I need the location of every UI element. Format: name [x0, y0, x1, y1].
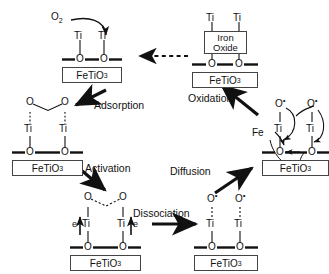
- o-atom-label: O: [84, 242, 92, 252]
- o2-gas-label: O2: [51, 12, 63, 24]
- o-radical-label: O•: [235, 192, 246, 204]
- step-label-adsorption: Adsorption: [94, 100, 144, 111]
- step-label-dissociation: Dissociation: [133, 208, 190, 219]
- o-atom-label: O: [26, 97, 34, 107]
- node-clean-surface: [62, 40, 122, 60]
- diagram-vector-layer: [0, 0, 329, 274]
- o-atom-label: O: [208, 59, 216, 69]
- step-label-activation: Activation: [85, 163, 131, 174]
- o-radical-label: O•: [207, 192, 218, 204]
- ti-atom-label: Ti: [24, 124, 32, 134]
- ti-atom-label: Ti: [206, 219, 214, 229]
- node-activated-o2: [70, 199, 141, 248]
- ti-atom-label: Ti: [206, 13, 214, 23]
- arrow-diffusion[interactable]: [215, 168, 252, 193]
- substrate-box: FeTiO3: [70, 255, 141, 271]
- electron-label: e: [133, 220, 138, 229]
- o-atom-label: O: [119, 242, 127, 252]
- substrate-box: FeTiO3: [12, 160, 83, 176]
- iron-oxide-line2: Oxide: [213, 43, 238, 53]
- o-atom-label: O: [76, 54, 84, 64]
- o-atom-label: O: [119, 192, 127, 202]
- fe-atom-label: Fe: [252, 128, 264, 138]
- o-atom-label: O: [208, 242, 216, 252]
- substrate-box: FeTiO3: [194, 255, 258, 271]
- o-atom-label: O: [61, 97, 69, 107]
- substrate-box: FeTiO3: [192, 72, 258, 88]
- ti-atom-label: Ti: [117, 219, 125, 229]
- ti-atom-label: Ti: [74, 31, 82, 41]
- ti-atom-label: Ti: [233, 13, 241, 23]
- reaction-cycle-diagram: O2 Ti Ti O O FeTiO3 Ti Ti Iron Oxide O O…: [0, 0, 329, 274]
- node-dissociated-o: [194, 207, 258, 248]
- ti-atom-label: Ti: [274, 124, 282, 134]
- ti-atom-label: Ti: [59, 124, 67, 134]
- node-adsorbed-o2: [12, 104, 83, 153]
- iron-oxide-line1: Iron: [217, 33, 233, 43]
- o-atom-label: O: [308, 147, 316, 157]
- ti-atom-label: Ti: [82, 219, 90, 229]
- o-atom-label: O: [235, 59, 243, 69]
- iron-oxide-box: Iron Oxide: [204, 31, 247, 54]
- step-label-diffusion: Diffusion: [170, 166, 211, 177]
- o-atom-label: O: [61, 147, 69, 157]
- ti-atom-label: Ti: [98, 31, 106, 41]
- electron-label: e: [72, 220, 77, 229]
- o-atom-label: O: [84, 192, 92, 202]
- substrate-box: FeTiO3: [262, 160, 329, 176]
- o-atom-label: O: [276, 147, 284, 157]
- ti-atom-label: Ti: [234, 219, 242, 229]
- o-radical-label: O•: [275, 97, 286, 109]
- substrate-box: FeTiO3: [62, 67, 122, 83]
- node-fe-diffusion: [262, 106, 329, 163]
- o-atom-label: O: [100, 54, 108, 64]
- o-atom-label: O: [236, 242, 244, 252]
- o-atom-label: O: [26, 147, 34, 157]
- o-radical-label: O•: [307, 97, 318, 109]
- step-label-oxidation: Oxidation: [188, 93, 232, 104]
- ti-atom-label: Ti: [306, 124, 314, 134]
